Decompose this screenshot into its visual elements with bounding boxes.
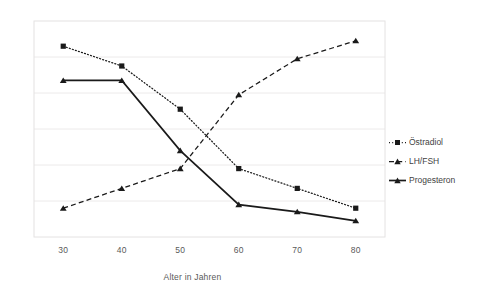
- series-line: [63, 41, 356, 208]
- legend-item: LH/FSH: [389, 157, 455, 166]
- x-axis-tick-label: 30: [43, 245, 83, 255]
- data-point-marker: [119, 63, 124, 68]
- gridlines: [34, 57, 385, 201]
- series-lh-fsh: [60, 38, 359, 211]
- chart-legend: ÖstradiolLH/FSHProgesteron: [389, 138, 455, 185]
- x-axis-title: Alter in Jahren: [0, 272, 385, 282]
- data-point-marker: [118, 185, 125, 191]
- series--stradiol: [61, 44, 359, 211]
- series-line: [63, 80, 356, 220]
- data-point-marker: [61, 44, 66, 49]
- x-axis-tick-label: 80: [336, 245, 376, 255]
- data-point-marker: [353, 206, 358, 211]
- x-axis-tick-label: 70: [277, 245, 317, 255]
- chart-container: 304050607080 Alter in Jahren ÖstradiolLH…: [0, 0, 490, 300]
- legend-marker-icon: [389, 138, 406, 147]
- legend-item: Progesteron: [389, 176, 455, 185]
- legend-label: LH/FSH: [409, 157, 439, 166]
- data-point-marker: [178, 107, 183, 112]
- data-point-marker: [236, 166, 241, 171]
- series-line: [63, 46, 356, 208]
- legend-item: Östradiol: [389, 138, 455, 147]
- legend-square-icon: [395, 140, 400, 145]
- x-axis-tick-label: 60: [219, 245, 259, 255]
- data-point-marker: [352, 38, 359, 44]
- x-axis-tick-label: 50: [160, 245, 200, 255]
- legend-marker-icon: [389, 176, 406, 185]
- x-axis-tick-label: 40: [102, 245, 142, 255]
- legend-marker-icon: [389, 157, 406, 166]
- legend-label: Östradiol: [409, 138, 443, 147]
- data-point-marker: [295, 186, 300, 191]
- legend-label: Progesteron: [409, 176, 455, 185]
